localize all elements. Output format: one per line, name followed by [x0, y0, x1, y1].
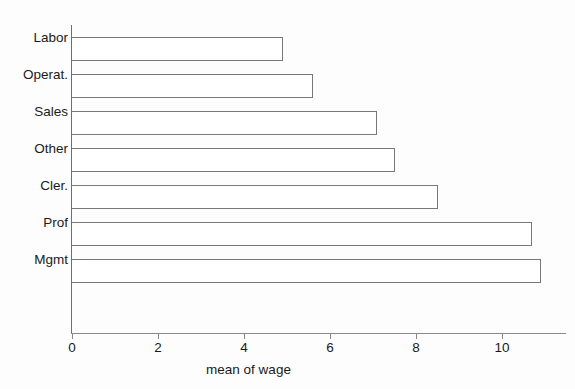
y-axis-label-prof: Prof	[2, 216, 68, 230]
x-axis-tick-label-0: 0	[68, 341, 76, 356]
x-axis-tick-4	[244, 333, 245, 339]
plot-area	[72, 25, 572, 333]
bar-operat	[72, 74, 313, 98]
x-axis-title: mean of wage	[0, 362, 575, 377]
x-axis-title-text: mean of wage	[206, 362, 291, 377]
x-axis-tick-label-4: 4	[240, 341, 248, 356]
y-axis-category-labels: Labor Operat. Sales Other Cler. Prof Mgm…	[0, 25, 68, 333]
bar-labor	[72, 37, 283, 61]
y-axis-label-cler: Cler.	[2, 179, 68, 193]
x-axis-tick-8	[416, 333, 417, 339]
x-axis-tick-2	[158, 333, 159, 339]
x-axis-tick-label-10: 10	[494, 341, 509, 356]
y-axis-label-mgmt: Mgmt	[2, 253, 68, 267]
x-axis-line	[71, 333, 566, 334]
bar-cler	[72, 185, 438, 209]
x-axis-tick-10	[502, 333, 503, 339]
x-axis-tick-0	[72, 333, 73, 339]
bar-mgmt	[72, 259, 541, 283]
bar-prof	[72, 222, 532, 246]
x-axis-tick-label-8: 8	[412, 341, 420, 356]
y-axis-label-sales: Sales	[2, 105, 68, 119]
y-axis-label-labor: Labor	[2, 31, 68, 45]
y-axis-label-other: Other	[2, 142, 68, 156]
x-axis-tick-6	[330, 333, 331, 339]
bar-chart: Labor Operat. Sales Other Cler. Prof Mgm…	[0, 0, 575, 389]
bar-other	[72, 148, 395, 172]
x-axis-tick-label-6: 6	[326, 341, 334, 356]
y-axis-label-operat: Operat.	[2, 68, 68, 82]
x-axis-tick-label-2: 2	[154, 341, 162, 356]
bar-sales	[72, 111, 377, 135]
